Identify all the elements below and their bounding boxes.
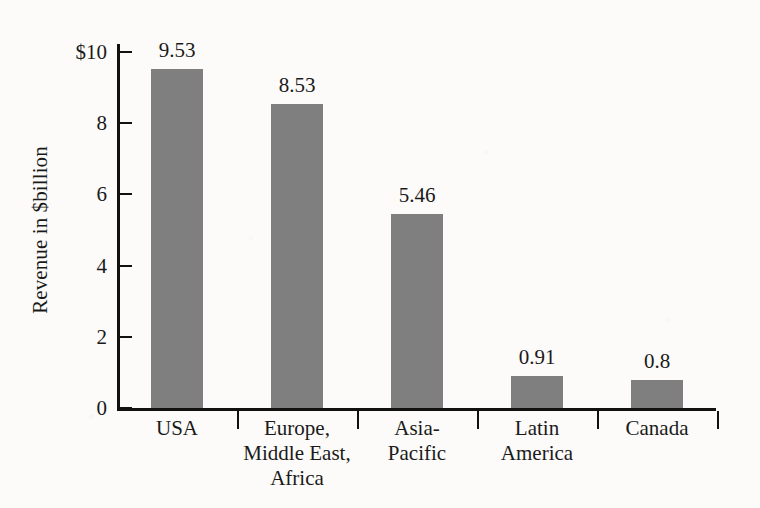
bar-value-label: 9.53 [117,38,237,63]
category-label-line: Asia- [357,416,477,441]
category-label-line: America [477,441,597,466]
category-label-line: Middle East, [237,441,357,466]
y-axis-tick [117,407,132,409]
bar-value-label: 5.46 [357,183,477,208]
x-axis-separator-tick [717,411,719,429]
y-axis-tick-label: 0 [37,396,107,421]
category-label-line: USA [117,416,237,441]
y-axis-tick-label: $10 [37,40,107,65]
x-axis-line [117,408,716,411]
x-axis-category-label: Canada [597,416,717,441]
x-axis-category-label: USA [117,416,237,441]
y-axis-tick [117,122,132,124]
x-axis-category-label: Europe,Middle East,Africa [237,416,357,491]
y-axis-tick-label: 8 [37,111,107,136]
category-label-line: Canada [597,416,717,441]
y-axis-tick [117,265,132,267]
category-label-line: Pacific [357,441,477,466]
x-axis-category-label: LatinAmerica [477,416,597,466]
y-axis-tick [117,336,132,338]
bar[interactable] [151,69,203,408]
bar[interactable] [631,380,683,408]
category-label-line: Europe, [237,416,357,441]
bar-value-label: 8.53 [237,73,357,98]
y-axis-line [117,44,120,410]
bar[interactable] [511,376,563,408]
y-axis-tick-label: 6 [37,182,107,207]
x-axis-category-label: Asia-Pacific [357,416,477,466]
category-label-line: Africa [237,466,357,491]
bar-chart: Revenue in $billion 02468$10 9.538.535.4… [0,0,760,508]
bar[interactable] [271,104,323,408]
bar-value-label: 0.91 [477,345,597,370]
bar[interactable] [391,214,443,408]
bar-value-label: 0.8 [597,349,717,374]
category-label-line: Latin [477,416,597,441]
y-axis-tick-label: 4 [37,253,107,278]
y-axis-tick [117,193,132,195]
y-axis-tick-label: 2 [37,324,107,349]
